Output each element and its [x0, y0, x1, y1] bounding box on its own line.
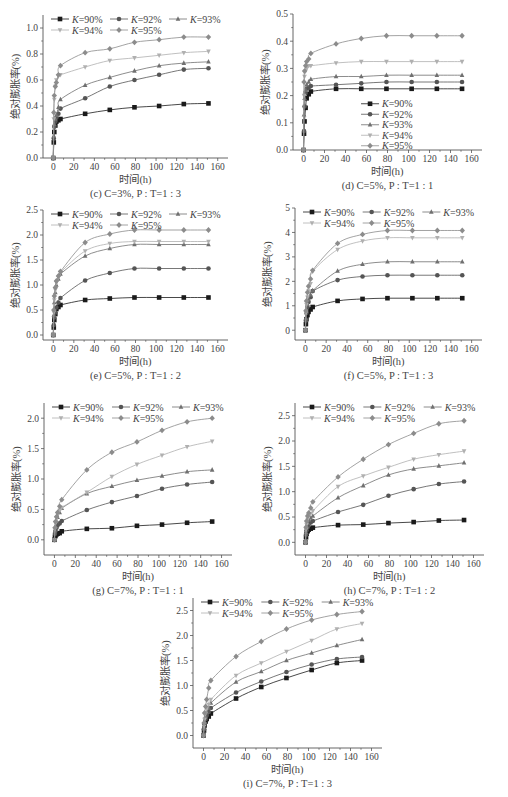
y-tick-label: 2.5	[176, 606, 188, 616]
square-marker-icon	[284, 676, 289, 681]
chart-i-axes: 0204060801001201401600.00.51.01.52.02.5	[176, 598, 382, 762]
circle-marker-icon	[335, 657, 340, 662]
square-marker-icon	[309, 668, 314, 673]
chart-panel-i: 0204060801001201401600.00.51.01.52.02.5时…	[0, 0, 508, 797]
legend-label: K=95%	[281, 608, 313, 619]
x-tick-label: 140	[343, 752, 358, 762]
legend-triangle-icon	[328, 599, 333, 604]
x-tick-label: 0	[201, 752, 206, 762]
circle-marker-icon	[259, 679, 264, 684]
square-marker-icon	[234, 696, 239, 701]
square-marker-icon	[335, 661, 340, 666]
chart-i-caption: (i) C=7%, P : T=1 : 3	[243, 778, 332, 790]
series-94	[201, 622, 364, 739]
y-tick-label: 1.5	[176, 656, 188, 666]
legend-diamond-icon	[268, 610, 273, 616]
diamond-marker-icon	[284, 626, 289, 632]
x-tick-label: 160	[364, 752, 379, 762]
y-axis-label: 绝对膨胀率(%)	[159, 640, 172, 706]
diamond-marker-icon	[359, 609, 364, 615]
circle-marker-icon	[309, 662, 314, 667]
legend-entry: K=95%	[261, 608, 313, 619]
y-tick-label: 0.0	[176, 731, 188, 741]
chart-i-plot	[201, 609, 365, 739]
square-marker-icon	[259, 685, 264, 690]
diamond-marker-icon	[204, 697, 209, 703]
diamond-marker-icon	[206, 685, 211, 691]
legend-entry: K=94%	[201, 608, 253, 619]
legend-label: K=90%	[221, 597, 253, 608]
y-tick-label: 1.0	[176, 681, 188, 691]
x-tick-label: 80	[283, 752, 293, 762]
diamond-marker-icon	[334, 612, 339, 618]
legend-entry: K=90%	[201, 597, 253, 608]
circle-marker-icon	[360, 655, 365, 660]
series-93	[201, 637, 364, 738]
y-tick-label: 2.0	[176, 631, 188, 641]
diamond-marker-icon	[233, 654, 238, 660]
legend-label: K=92%	[281, 597, 313, 608]
legend-square-icon	[208, 600, 213, 605]
circle-marker-icon	[284, 670, 289, 675]
legend-entry: K=93%	[322, 597, 374, 608]
diamond-marker-icon	[259, 639, 264, 645]
legend-entry: K=92%	[261, 597, 313, 608]
y-tick-label: 0.5	[176, 706, 188, 716]
x-tick-label: 100	[301, 752, 316, 762]
series-92	[201, 655, 364, 738]
x-tick-label: 20	[220, 752, 230, 762]
chart-i-svg: 0204060801001201401600.00.51.01.52.02.5时…	[0, 0, 508, 797]
chart-i-legend: K=90%K=92%K=93%K=94%K=95%	[201, 597, 373, 619]
x-axis-label: 时间(h)	[271, 763, 304, 776]
legend-label: K=93%	[342, 597, 374, 608]
triangle-down-marker-icon	[234, 674, 239, 679]
circle-marker-icon	[234, 690, 239, 695]
legend-triangle-down-icon	[208, 611, 213, 616]
x-tick-label: 120	[322, 752, 337, 762]
legend-circle-icon	[268, 600, 273, 605]
x-tick-label: 60	[262, 752, 272, 762]
legend-label: K=94%	[221, 608, 253, 619]
x-tick-label: 40	[241, 752, 251, 762]
triangle-marker-icon	[360, 637, 365, 642]
